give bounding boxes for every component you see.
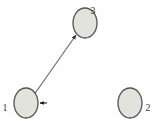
node-layer — [14, 8, 142, 118]
node-label-3: 3 — [91, 5, 96, 16]
edge-node1-node3[interactable] — [36, 35, 76, 92]
node-label-2: 2 — [146, 102, 151, 113]
graph-node-1[interactable] — [14, 88, 38, 118]
graph-svg: 1 2 3 — [0, 0, 157, 121]
graph-diagram-canvas: 1 2 3 — [0, 0, 157, 121]
edge-layer — [36, 35, 118, 103]
graph-node-2[interactable] — [118, 88, 142, 118]
node-label-1: 1 — [3, 102, 8, 113]
